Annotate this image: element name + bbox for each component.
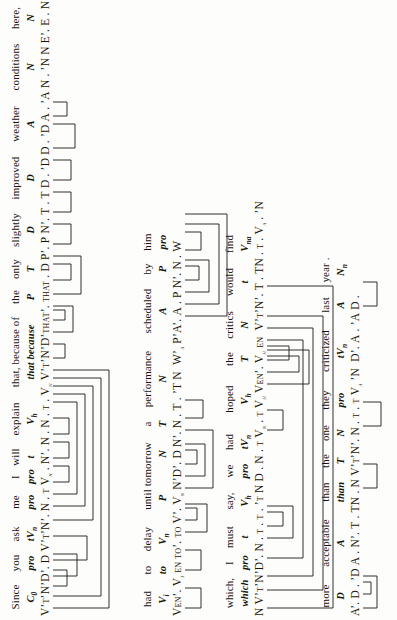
sentence-4-gloss: DAthanTNprotVnANn — [333, 0, 348, 616]
sentence-1-arcs — [53, 0, 115, 616]
sentence-block-1: SinceyouaskmeIwillexplainthat, because o… — [8, 0, 115, 616]
rotation-wrapper: SinceyouaskmeIwillexplainthat, because o… — [0, 0, 397, 620]
sentence-1-gloss: C0protVnproprotVhthat becausePTDDANNEpro — [23, 0, 38, 616]
sentence-4-words: moreacceptablethantheonetheycriticizedla… — [318, 0, 333, 616]
sentence-1-words: SinceyouaskmeIwillexplainthat, because o… — [8, 0, 23, 616]
sentence-1-codes: V’t’N’D’. D V’t’N’. N . t Vn . N’. N . N… — [38, 0, 53, 616]
sentence-3-gloss: whichprotVhprotVnVhTNtVna — [237, 0, 252, 616]
sentence-3-codes: N V’t’N’D’. N . t . t . ’t N D . N . t V… — [252, 0, 267, 616]
sentence-3-words: which,Imustsay,wehadhopedthecriticswould… — [222, 0, 237, 616]
sentence-4-arcs — [363, 0, 397, 616]
sentence-4-codes: A’. D . ’D A . N’. T . TN . N V’t’N’. N … — [348, 0, 363, 616]
sentence-2-codes: Ven’. Vi en to’. to V’. Vn N’D’. D N’. N… — [170, 0, 185, 616]
sentence-block-4: moreacceptablethantheonetheycriticizedla… — [318, 0, 397, 616]
sentence-2-words: hadtodelayuntil tomorrowaperformancesche… — [140, 0, 155, 616]
diagram-page: SinceyouaskmeIwillexplainthat, because o… — [0, 0, 397, 620]
sentence-2-gloss: VitoVnPNTNAPpro — [155, 0, 170, 616]
sentence-block-2: hadtodelayuntil tomorrowaperformancesche… — [140, 0, 235, 616]
scanned-sheet: SinceyouaskmeIwillexplainthat, because o… — [0, 0, 397, 620]
